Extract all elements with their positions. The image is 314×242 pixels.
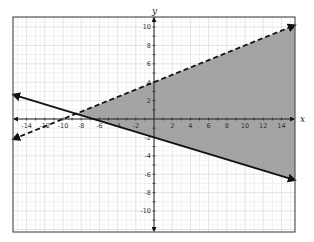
x-axis-label: x (300, 114, 305, 124)
y-tick-label: 10 (143, 23, 151, 31)
y-tick-label: -4 (145, 152, 151, 160)
x-tick-label: 2 (170, 122, 174, 130)
y-tick-label: -10 (140, 207, 151, 215)
y-tick-label: 8 (147, 42, 151, 50)
y-tick-label: 2 (147, 97, 151, 105)
inequality-graph: -14-12-10-8-6-4-22468101214-10-8-6-4-224… (0, 0, 314, 242)
x-tick-label: -10 (58, 122, 69, 130)
x-tick-label: -2 (133, 122, 139, 130)
x-tick-label: 10 (241, 122, 249, 130)
x-tick-label: 4 (188, 122, 192, 130)
x-tick-label: 12 (259, 122, 267, 130)
y-tick-label: -6 (145, 171, 151, 179)
y-tick-label: 6 (147, 60, 151, 68)
x-tick-label: 8 (225, 122, 229, 130)
x-tick-label: -14 (21, 122, 32, 130)
x-tick-label: 14 (277, 122, 285, 130)
x-tick-label: 6 (207, 122, 211, 130)
x-tick-label: -8 (78, 122, 84, 130)
y-tick-label: -8 (145, 189, 151, 197)
y-axis-label: y (151, 6, 158, 16)
x-tick-label: -6 (96, 122, 102, 130)
